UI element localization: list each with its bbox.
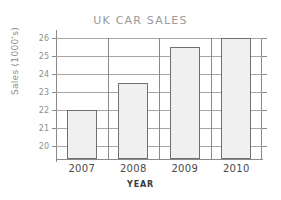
y-tick-label: 25 (39, 52, 49, 61)
y-tick-label: 21 (39, 124, 49, 133)
category-separator (108, 38, 109, 159)
y-tick-label: 20 (39, 142, 49, 151)
y-tick-mark (52, 74, 56, 75)
bar (67, 110, 97, 159)
y-tick-mark-right (262, 74, 267, 75)
y-tick-mark (52, 38, 56, 39)
y-tick-mark-right (262, 128, 267, 129)
y-tick-mark (52, 56, 56, 57)
bar (221, 38, 251, 159)
y-tick-mark-right (262, 56, 267, 57)
x-tick-label: 2008 (108, 163, 160, 174)
x-tick-label: 2007 (56, 163, 108, 174)
chart-title: UK CAR SALES (0, 14, 281, 27)
y-tick-mark (52, 110, 56, 111)
bar-chart: UK CAR SALES Sales (1000's) 202122232425… (0, 0, 281, 200)
bar (170, 47, 200, 159)
y-tick-mark (52, 128, 56, 129)
x-axis-line (56, 159, 263, 160)
y-tick-label: 22 (39, 106, 49, 115)
y-tick-mark-right (262, 146, 267, 147)
y-tick-label: 26 (39, 34, 49, 43)
bar (118, 83, 148, 159)
x-tick-label: 2009 (159, 163, 211, 174)
category-separator (159, 38, 160, 159)
y-tick-mark-right (262, 38, 267, 39)
y-tick-label: 24 (39, 70, 49, 79)
plot-area: 20212223242526 (56, 38, 262, 159)
y-axis-title: Sales (1000's) (10, 16, 20, 106)
y-tick-mark-right (262, 110, 267, 111)
y-tick-mark (52, 92, 56, 93)
x-axis-title: YEAR (0, 180, 281, 189)
y-tick-label: 23 (39, 88, 49, 97)
category-separator (211, 38, 212, 159)
y-tick-mark (52, 146, 56, 147)
x-tick-label: 2010 (211, 163, 263, 174)
y-tick-mark-right (262, 92, 267, 93)
